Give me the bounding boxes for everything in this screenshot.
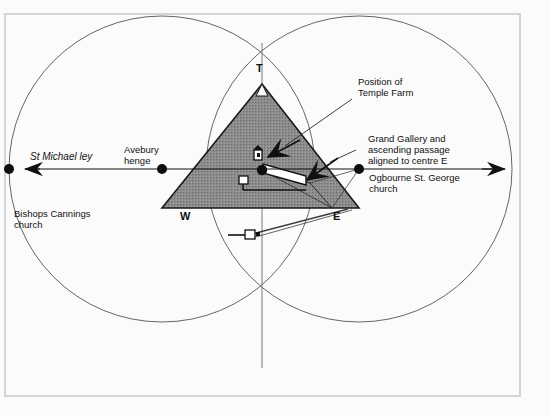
temple-farm-node — [257, 165, 267, 175]
label-avebury-henge: Avebury henge — [124, 144, 159, 166]
label-position-of-temple-farm: Position of Temple Farm — [358, 76, 413, 98]
label-east-E: E — [333, 211, 340, 222]
label-apex-T: T — [256, 63, 263, 74]
label-west-W: W — [180, 211, 190, 222]
diagram-canvas: T W E St Michael ley Avebury henge Bisho… — [0, 0, 550, 417]
label-st-michael-ley: St Michael ley — [30, 151, 92, 162]
label-ogbourne-st-george-church: Ogbourne St. George church — [369, 172, 460, 194]
label-bishops-cannings-church: Bishops Cannings church — [14, 208, 91, 230]
label-grand-gallery: Grand Gallery and ascending passage alig… — [368, 133, 450, 166]
